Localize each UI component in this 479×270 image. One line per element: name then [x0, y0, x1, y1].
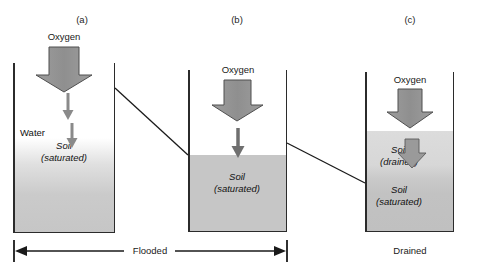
diagram-overlay: [0, 0, 479, 270]
oxygen-block-arrow-c: [387, 89, 433, 128]
caption-flooded: Flooded: [124, 245, 176, 256]
flooded-span-left-arrow: [15, 246, 124, 256]
connector-line-b-to-c: [287, 143, 365, 183]
oxygen-block-arrow-b: [212, 80, 263, 121]
oxygen-block-arrow-a: [36, 47, 92, 92]
caption-drained: Drained: [383, 245, 437, 256]
connector-line-a-to-b: [115, 88, 188, 155]
flooded-span-right-arrow: [175, 246, 286, 256]
diffusion-arrow-a-2: [67, 123, 78, 148]
figure-root: (a) (b) (c) Oxygen Water Soil (saturated…: [0, 0, 479, 270]
diffusion-arrow-a-1: [63, 93, 74, 120]
diffusion-arrow-c: [398, 139, 426, 168]
diffusion-arrow-b: [232, 128, 245, 158]
